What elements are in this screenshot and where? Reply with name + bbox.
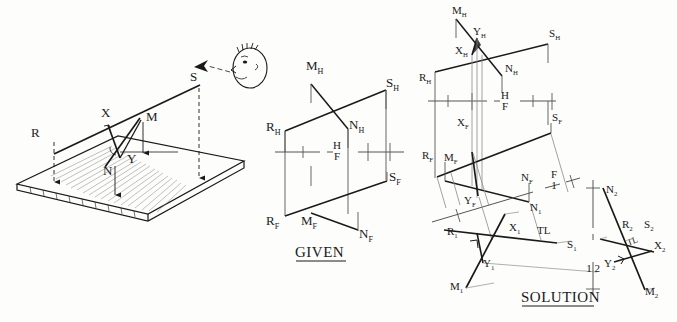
solution-witness-F (445, 123, 551, 202)
given-view (275, 84, 404, 261)
label-R1-solution: R1 (447, 226, 458, 240)
fold-label-HF-given: HF (333, 140, 341, 162)
label-S2-solution: S2 (644, 219, 654, 233)
label-Y-pictorial: Y (127, 152, 136, 165)
label-N-pictorial: N (103, 164, 112, 177)
label-YF-solution: YF (464, 195, 476, 209)
given-line-MN-F (311, 213, 358, 230)
label-RF-solution: RF (422, 150, 433, 164)
label-SH-solution: SH (549, 28, 560, 42)
given-title: GIVEN (295, 245, 344, 260)
solution-fold-line-12 (586, 180, 600, 295)
solution-view (428, 19, 655, 306)
solution-line-RS-H (435, 44, 548, 72)
label-S1-solution: S1 (567, 239, 577, 253)
drawing-page: R X S M Y N MH SH RH NH HF SF RF MF NF G… (0, 0, 677, 322)
label-XH-solution: XH (455, 45, 468, 59)
solution-witness-H (435, 19, 548, 101)
label-X1-solution: X1 (509, 222, 520, 236)
label-NH-given: NH (349, 118, 364, 135)
solution-title: SOLUTION (521, 290, 600, 305)
label-NH-solution: NH (505, 63, 518, 77)
ground-plane (17, 136, 244, 221)
label-SF-solution: SF (552, 112, 562, 126)
label-N2-solution: N2 (606, 184, 617, 198)
label-MF-given: MF (301, 214, 317, 231)
solution-line-MN-aux2 (603, 188, 645, 290)
solution-line-MN-aux1 (466, 214, 505, 288)
right-angle-mark-aux1 (470, 240, 478, 248)
label-M-pictorial: M (146, 110, 158, 123)
label-SH-given: SH (386, 76, 399, 93)
observer-head-icon (231, 43, 267, 88)
label-SF-given: SF (389, 170, 401, 187)
label-RH-solution: RH (419, 72, 431, 86)
label-Y1-solution: Y1 (483, 258, 494, 272)
label-MH-given: MH (306, 59, 323, 76)
label-XF-solution: XF (457, 117, 469, 131)
label-NF-given: NF (359, 227, 373, 244)
label-NF-solution: NF (521, 172, 533, 186)
given-line-RS-F (285, 181, 387, 216)
label-MH-solution: MH (452, 5, 467, 19)
label-TL1-solution: TL (537, 225, 550, 236)
label-RH-given: RH (266, 120, 280, 137)
fold-label-HF-solution: HF (501, 90, 509, 112)
given-witness-lines-F (358, 172, 387, 231)
slab-edge-hatch (30, 187, 135, 217)
pictorial-view (17, 43, 267, 221)
solution-projectors-frontal (435, 101, 548, 178)
sight-line (208, 66, 230, 72)
label-R-pictorial: R (31, 126, 40, 139)
label-X-pictorial: X (101, 106, 110, 119)
label-N1-solution: N1 (530, 202, 541, 216)
fold-label-F1-solution: F1 (551, 169, 557, 191)
label-S-pictorial: S (190, 70, 197, 83)
label-MF-solution: MF (444, 152, 458, 166)
label-X2-solution: X2 (654, 240, 665, 254)
label-Y2-solution: Y2 (604, 258, 615, 272)
label-YH-solution: YH (473, 26, 486, 40)
line-RS-pictorial (54, 85, 200, 154)
given-line-MN-H (311, 84, 348, 129)
fold-label-12-solution: 1 2 (580, 263, 606, 274)
solution-fold-line-HF (428, 93, 556, 110)
solution-fold-line-F1 (432, 175, 580, 222)
label-R2-solution: R2 (622, 219, 633, 233)
label-RF-given: RF (266, 214, 279, 231)
given-line-RS-H (285, 90, 386, 131)
label-M1-solution: M1 (450, 281, 463, 295)
label-M2-solution: M2 (645, 286, 658, 300)
